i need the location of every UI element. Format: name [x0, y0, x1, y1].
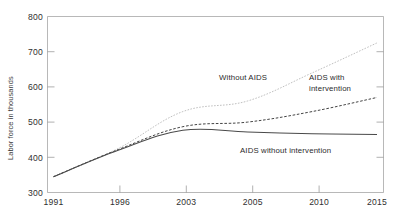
x-tick-label-1996: 1996 — [110, 197, 130, 207]
y-axis-title: Labor force in thousands — [6, 76, 15, 160]
annotation-aids-without-intervention: AIDS without intervention — [240, 146, 331, 155]
y-tick-label-300: 300 — [28, 188, 43, 198]
annotation-aids-with-intervention-line2: intervention — [309, 84, 351, 93]
y-tick-label-500: 500 — [28, 117, 43, 127]
x-tick-label-1991: 1991 — [44, 197, 64, 207]
chart-background — [0, 0, 404, 221]
x-tick-label-2010: 2010 — [309, 197, 329, 207]
x-tick-label-2003: 2003 — [176, 197, 196, 207]
y-tick-label-700: 700 — [28, 47, 43, 57]
annotation-aids-with-intervention-line1: AIDS with — [309, 73, 345, 82]
y-tick-label-600: 600 — [28, 82, 43, 92]
chart-container: 800 700 600 500 400 300 1991 1996 2003 2… — [0, 0, 404, 221]
annotation-without-aids: Without AIDS — [219, 73, 267, 82]
x-tick-label-2015: 2015 — [367, 197, 387, 207]
line-chart: 800 700 600 500 400 300 1991 1996 2003 2… — [0, 0, 404, 221]
y-tick-label-400: 400 — [28, 153, 43, 163]
x-tick-label-2005: 2005 — [243, 197, 263, 207]
y-tick-label-800: 800 — [28, 12, 43, 22]
